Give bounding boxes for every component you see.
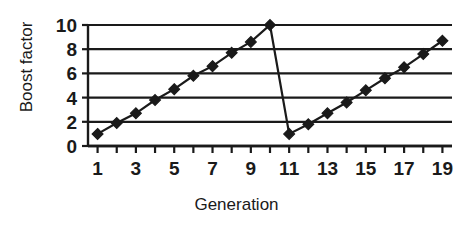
data-line <box>98 25 443 134</box>
y-tick-label: 0 <box>66 136 77 157</box>
x-axis-tick-labels: 135791113151719 <box>92 158 453 179</box>
x-tick-label: 13 <box>317 158 338 179</box>
x-tick-label: 17 <box>394 158 415 179</box>
x-tick-label: 19 <box>432 158 453 179</box>
x-tick-label: 1 <box>92 158 103 179</box>
y-axis-tick-labels: 0246810 <box>56 15 78 157</box>
x-tick-label: 11 <box>279 158 300 179</box>
y-tick-label: 6 <box>66 63 77 84</box>
plot-area: 0246810 135791113151719 <box>0 0 473 230</box>
x-tick-label: 9 <box>246 158 257 179</box>
y-tick-label: 4 <box>66 88 77 109</box>
chart-figure: Boost factor Generation 0246810 13579111… <box>0 0 473 230</box>
gridlines <box>88 25 452 146</box>
x-tick-label: 5 <box>169 158 180 179</box>
x-tick-label: 15 <box>355 158 377 179</box>
x-tick-label: 7 <box>207 158 218 179</box>
y-tick-label: 2 <box>66 112 77 133</box>
y-tick-label: 10 <box>56 15 77 36</box>
x-tick-label: 3 <box>131 158 142 179</box>
y-tick-label: 8 <box>66 39 77 60</box>
